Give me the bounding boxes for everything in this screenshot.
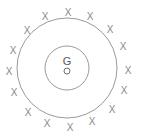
field-marker-x: X xyxy=(87,11,94,22)
diagram-svg: G XXXXXXXXXXXXXXXX xyxy=(0,0,141,136)
field-marker-x: X xyxy=(109,104,116,115)
field-marker-x: X xyxy=(42,11,49,22)
field-marker-x: X xyxy=(67,122,74,133)
center-point-o xyxy=(64,68,70,74)
field-marker-x: X xyxy=(10,45,17,56)
field-marker-x: X xyxy=(6,66,13,77)
field-marker-x: X xyxy=(125,65,132,76)
field-marker-x: X xyxy=(65,7,72,18)
field-marker-x: X xyxy=(44,118,51,129)
diagram-canvas: G XXXXXXXXXXXXXXXX xyxy=(0,0,141,136)
field-marker-x: X xyxy=(24,25,31,36)
field-marker-x: X xyxy=(11,87,18,98)
field-marker-x: X xyxy=(25,107,32,118)
center-label-g: G xyxy=(63,55,72,67)
field-marker-x: X xyxy=(107,24,114,35)
field-markers: XXXXXXXXXXXXXXXX xyxy=(6,7,132,133)
field-marker-x: X xyxy=(120,41,127,52)
field-marker-x: X xyxy=(89,116,96,127)
field-marker-x: X xyxy=(121,85,128,96)
